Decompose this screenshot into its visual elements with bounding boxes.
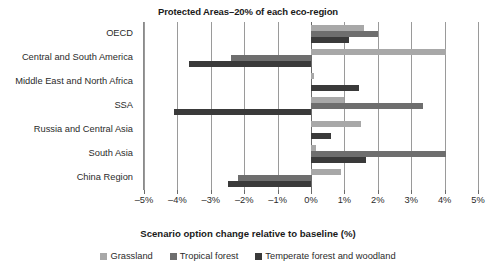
bar-group — [144, 46, 478, 70]
bar — [311, 85, 359, 91]
bar-group — [144, 94, 478, 118]
x-axis-tick-labels: –5%–4%–3%–2%–1%0%1%2%3%4%5% — [144, 195, 478, 208]
bar — [174, 109, 311, 115]
x-axis-tick — [344, 190, 345, 194]
x-axis-tick-label: –3% — [201, 195, 220, 205]
x-axis-tick-label: 3% — [404, 195, 417, 205]
bar-group — [144, 22, 478, 46]
bar — [189, 61, 311, 67]
x-axis-tick-label: –1% — [268, 195, 287, 205]
x-axis-tick-label: 1% — [338, 195, 351, 205]
x-axis-tick-label: 0% — [304, 195, 317, 205]
legend-swatch-icon — [170, 253, 177, 260]
y-axis-label: SSA — [114, 100, 133, 111]
bar — [311, 73, 314, 79]
y-axis-label: Russia and Central Asia — [34, 124, 133, 135]
y-axis-label: Middle East and North Africa — [15, 76, 133, 87]
y-axis-label: OECD — [106, 28, 133, 39]
x-axis-tick-label: –2% — [235, 195, 254, 205]
bar-group — [144, 166, 478, 190]
x-axis-tick-label: 5% — [471, 195, 484, 205]
bar — [311, 157, 366, 163]
bar — [311, 103, 423, 109]
x-axis-tick — [244, 190, 245, 194]
bar-group — [144, 142, 478, 166]
legend-item: Tropical forest — [170, 251, 239, 261]
x-axis-tick — [478, 190, 479, 194]
legend-label: Temperate forest and woodland — [265, 251, 395, 261]
legend-swatch-icon — [100, 253, 107, 260]
y-axis-category-labels: OECDCentral and South AmericaMiddle East… — [0, 22, 139, 190]
bar — [311, 133, 331, 139]
x-axis-tick — [177, 190, 178, 194]
x-axis-tick-label: 2% — [371, 195, 384, 205]
bar — [311, 169, 341, 175]
y-axis-label: Central and South America — [22, 52, 133, 63]
x-axis-tick — [278, 190, 279, 194]
x-axis-tick — [144, 190, 145, 194]
y-axis-label: China Region — [77, 172, 133, 183]
x-axis-tick — [211, 190, 212, 194]
x-axis-tick — [411, 190, 412, 194]
bar — [311, 37, 349, 43]
legend-swatch-icon — [255, 253, 262, 260]
x-axis-tick — [311, 190, 312, 194]
chart-legend: GrasslandTropical forestTemperate forest… — [0, 251, 496, 261]
x-axis-tick-label: –5% — [135, 195, 154, 205]
bar — [228, 181, 312, 187]
legend-label: Grassland — [110, 251, 152, 261]
x-axis-tick-label: –4% — [168, 195, 187, 205]
bar — [311, 121, 361, 127]
bar-group — [144, 118, 478, 142]
x-axis-tick — [378, 190, 379, 194]
legend-item: Temperate forest and woodland — [255, 251, 395, 261]
x-axis-tick-label: 4% — [438, 195, 451, 205]
gridline — [478, 22, 479, 190]
x-axis-title: Scenario option change relative to basel… — [0, 228, 496, 239]
plot-area — [144, 22, 478, 190]
x-axis-tick — [445, 190, 446, 194]
chart-container: Protected Areas–20% of each eco-region O… — [0, 0, 496, 276]
x-axis-ticks — [144, 190, 478, 194]
bar — [311, 49, 446, 55]
legend-item: Grassland — [100, 251, 152, 261]
bar-group — [144, 70, 478, 94]
legend-label: Tropical forest — [180, 251, 239, 261]
y-axis-label: South Asia — [89, 148, 133, 159]
chart-title: Protected Areas–20% of each eco-region — [0, 6, 496, 17]
